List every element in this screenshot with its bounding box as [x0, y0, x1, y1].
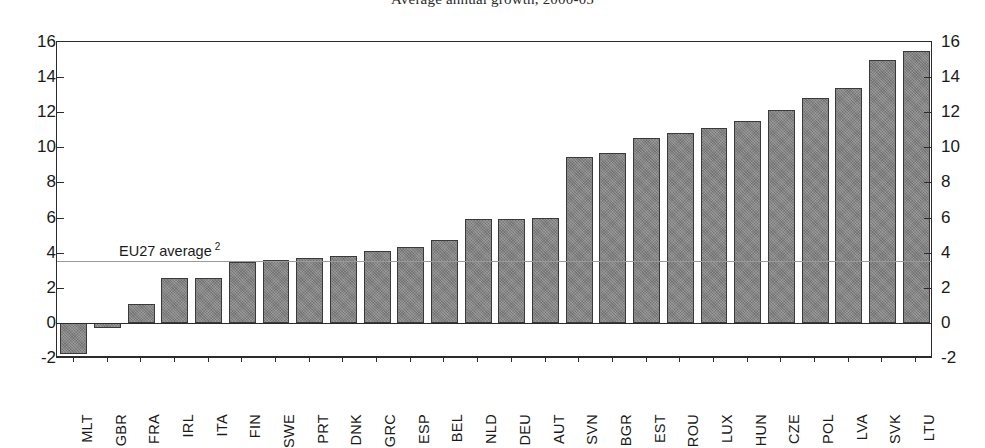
bar-deu: [498, 219, 525, 323]
category-label-ltu: LTU: [921, 414, 937, 441]
category-label-svn: SVN: [584, 414, 600, 445]
y-tick-label-right: 8: [941, 173, 950, 190]
bar-pol: [802, 98, 829, 323]
bar-svk: [869, 60, 896, 323]
y-tick-label-left: 14: [37, 68, 56, 85]
category-label-bel: BEL: [449, 414, 465, 442]
category-label-fin: FIN: [247, 414, 263, 438]
y-tick-label-left: 4: [47, 244, 56, 261]
y-tick-label-right: 12: [941, 103, 960, 120]
axis-tick: [57, 323, 64, 324]
axis-tick: [924, 112, 931, 113]
category-label-lva: LVA: [854, 414, 870, 440]
category-label-irl: IRL: [180, 414, 196, 437]
bar-hun: [734, 121, 761, 323]
y-tick-label-left: -2: [41, 349, 56, 366]
category-label-est: EST: [652, 414, 668, 443]
bar-fin: [229, 262, 256, 323]
bar-fra: [128, 304, 155, 323]
y-tick-label-left: 6: [47, 209, 56, 226]
axis-tick: [924, 218, 931, 219]
y-tick-label-left: 0: [47, 314, 56, 331]
y-tick-label-right: 6: [941, 209, 950, 226]
category-label-dnk: DNK: [348, 414, 364, 446]
axis-tick: [924, 323, 931, 324]
bar-svn: [566, 157, 593, 323]
category-axis-labels: MLTGBRFRAIRLITAFINSWEPRTDNKGRCESPBELNLDD…: [56, 362, 932, 419]
axis-tick: [924, 253, 931, 254]
chart-title: Average annual growth, 2000-05: [0, 0, 985, 8]
bar-cze: [768, 110, 795, 322]
y-tick-label-right: -2: [941, 349, 956, 366]
category-label-gbr: GBR: [113, 414, 129, 446]
bar-bgr: [599, 153, 626, 322]
bar-prt: [296, 258, 323, 323]
axis-tick: [924, 147, 931, 148]
eu27-average-line: [57, 261, 931, 262]
category-label-prt: PRT: [315, 414, 331, 444]
zero-baseline: [57, 323, 931, 324]
axis-tick: [57, 218, 64, 219]
bar-esp: [397, 247, 424, 322]
y-tick-label-right: 10: [941, 138, 960, 155]
bar-lva: [835, 88, 862, 323]
category-axis-line: [56, 357, 932, 358]
category-label-ita: ITA: [214, 414, 230, 436]
category-label-hun: HUN: [753, 414, 769, 446]
category-label-bgr: BGR: [618, 414, 634, 446]
bar-dnk: [330, 256, 357, 323]
y-tick-label-left: 8: [47, 173, 56, 190]
y-tick-label-left: 2: [47, 279, 56, 296]
category-label-cze: CZE: [786, 414, 802, 444]
y-tick-label-left: 10: [37, 138, 56, 155]
category-label-esp: ESP: [416, 414, 432, 444]
bar-nld: [465, 219, 492, 323]
y-tick-label-right: 2: [941, 279, 950, 296]
category-label-fra: FRA: [146, 414, 162, 444]
category-label-lux: LUX: [719, 414, 735, 443]
bar-est: [633, 138, 660, 323]
axis-tick: [924, 77, 931, 78]
y-tick-label-right: 14: [941, 68, 960, 85]
category-label-svk: SVK: [887, 414, 903, 444]
axis-tick: [57, 182, 64, 183]
bar-swe: [263, 260, 290, 323]
category-label-grc: GRC: [382, 414, 398, 447]
axis-tick: [57, 77, 64, 78]
axis-tick: [924, 182, 931, 183]
axis-tick: [57, 112, 64, 113]
bar-bel: [431, 240, 458, 323]
y-tick-label-left: 12: [37, 103, 56, 120]
bar-mlt: [60, 323, 87, 355]
plot-inner: EU27 average2: [57, 42, 931, 356]
plot-area: EU27 average2: [56, 41, 932, 357]
category-label-mlt: MLT: [79, 414, 95, 443]
category-label-swe: SWE: [281, 414, 297, 448]
y-tick-label-right: 16: [941, 33, 960, 50]
bar-series: [57, 42, 931, 356]
axis-tick: [924, 288, 931, 289]
axis-tick: [57, 288, 64, 289]
category-label-rou: ROU: [685, 414, 701, 447]
category-label-nld: NLD: [483, 414, 499, 444]
bar-lux: [701, 128, 728, 323]
bar-irl: [161, 278, 188, 323]
eu27-average-label: EU27 average2: [119, 241, 220, 259]
y-tick-label-right: 4: [941, 244, 950, 261]
y-tick-label-right: 0: [941, 314, 950, 331]
bar-aut: [532, 218, 559, 323]
axis-tick: [57, 147, 64, 148]
category-label-pol: POL: [820, 414, 836, 444]
category-label-deu: DEU: [517, 414, 533, 446]
bar-ita: [195, 278, 222, 323]
axis-tick: [57, 253, 64, 254]
category-label-aut: AUT: [551, 414, 567, 444]
y-tick-label-left: 16: [37, 33, 56, 50]
bar-rou: [667, 133, 694, 323]
bar-ltu: [903, 51, 930, 323]
